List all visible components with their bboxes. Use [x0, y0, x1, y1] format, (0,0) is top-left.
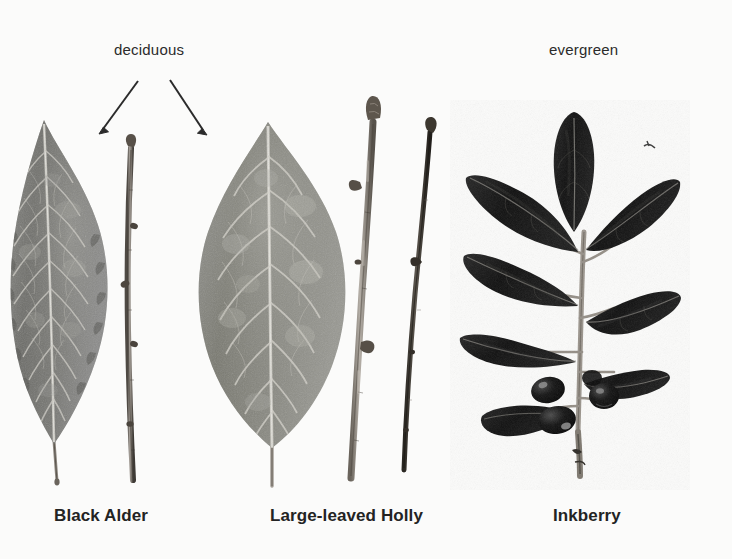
specimen-black-alder [0, 100, 130, 485]
specimen-inkberry [450, 100, 690, 490]
arrow-to-large-leaved-holly [170, 80, 207, 135]
twig-holly-budded [349, 96, 381, 478]
twig-black-alder [120, 134, 139, 480]
annotation-arrows [99, 80, 207, 135]
specimen-large-leaved-holly [180, 100, 370, 486]
twig-holly-slender [403, 117, 436, 470]
evergreen-label: evergreen [549, 41, 618, 58]
specimen-artwork [0, 0, 732, 559]
caption-black-alder: Black Alder [54, 506, 148, 526]
caption-inkberry: Inkberry [553, 506, 621, 526]
specimen-plate: deciduous evergreen Black Alder Large-le… [0, 0, 732, 559]
deciduous-label: deciduous [114, 41, 184, 58]
arrow-to-black-alder [99, 81, 138, 134]
caption-large-leaved-holly: Large-leaved Holly [270, 506, 423, 526]
